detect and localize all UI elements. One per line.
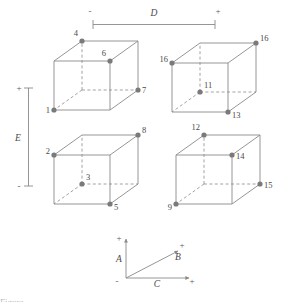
vertex-label-11: 11 <box>204 80 212 90</box>
axis-c-label: C <box>154 279 161 289</box>
vertex-dot <box>107 58 112 63</box>
vertex-dot <box>253 40 258 45</box>
vertex-label-3: 3 <box>86 172 90 182</box>
vertex-label-12: 12 <box>192 122 201 132</box>
vertex-dot <box>79 38 84 43</box>
axis-a-plus-sign: + <box>116 233 121 243</box>
vertex-dot <box>201 132 206 137</box>
axis-triad: + + - + A B C <box>115 233 194 289</box>
axis-b-label: B <box>175 252 181 262</box>
e-scale-bar: + - E <box>14 83 33 191</box>
vertex-dot <box>107 201 112 206</box>
e-plus-sign: + <box>16 83 21 93</box>
vertex-label-1: 1 <box>46 105 50 115</box>
axis-a-label: A <box>115 254 122 264</box>
cube-top-right: 16 16 11 13 <box>160 33 269 120</box>
vertex-label-7: 7 <box>142 85 146 95</box>
vertex-dot <box>51 152 56 157</box>
vertex-dot <box>225 109 230 114</box>
vertex-dot <box>197 89 202 94</box>
vertex-label-9: 9 <box>168 202 172 212</box>
vertex-label-6: 6 <box>102 48 106 58</box>
vertex-dot <box>169 60 174 65</box>
vertex-dot <box>51 107 56 112</box>
vertex-label-16-right: 16 <box>260 33 269 43</box>
figure-root: - + D + - E <box>0 0 288 302</box>
axis-c-plus-sign: + <box>189 276 194 286</box>
figure-caption: Figure <box>0 293 288 302</box>
vertex-dot <box>173 201 178 206</box>
cube-diagram: - + D + - E <box>0 0 288 302</box>
d-minus-sign: - <box>89 6 92 16</box>
d-axis-label: D <box>150 8 158 18</box>
vertex-dot <box>257 181 262 186</box>
vertex-label-4: 4 <box>74 28 79 38</box>
d-plus-sign: + <box>215 6 220 16</box>
vertex-label-2: 2 <box>46 146 50 156</box>
cube-bottom-right: 12 14 15 9 <box>168 122 273 212</box>
vertex-label-15: 15 <box>264 180 273 190</box>
vertex-label-8: 8 <box>142 125 146 135</box>
cube-bottom-left: 2 8 3 5 <box>46 125 147 212</box>
axis-b-line <box>126 251 178 278</box>
e-axis-label: E <box>14 133 21 143</box>
vertex-dot <box>135 132 140 137</box>
d-scale-bar: - + D <box>89 6 221 29</box>
e-minus-sign: - <box>18 181 21 191</box>
axis-b-plus-sign: + <box>179 240 184 250</box>
vertex-label-13: 13 <box>232 110 241 120</box>
cube-top-left: 4 6 7 1 <box>46 28 147 115</box>
vertex-dot <box>135 87 140 92</box>
vertex-dot <box>79 181 84 186</box>
vertex-label-5: 5 <box>114 202 118 212</box>
vertex-label-14: 14 <box>236 151 245 161</box>
vertex-label-16-left: 16 <box>160 54 169 64</box>
axis-c-minus-sign: - <box>116 276 119 286</box>
vertex-dot <box>229 152 234 157</box>
